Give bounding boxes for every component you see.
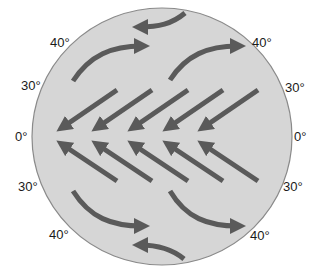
latitude-label-right-30-north: 30°	[285, 81, 305, 94]
global-wind-belts-diagram: 40° 30° 0° 30° 40° 40° 30° 0° 30° 40°	[0, 0, 317, 277]
latitude-label-right-30-south: 30°	[283, 180, 303, 193]
latitude-label-right-40-south: 40°	[250, 229, 270, 242]
latitude-label-right-equator: 0°	[294, 130, 306, 143]
latitude-label-right-40-north: 40°	[252, 36, 272, 49]
latitude-label-left-40-north: 40°	[50, 36, 70, 49]
latitude-label-left-40-south: 40°	[49, 228, 69, 241]
latitude-label-left-30-south: 30°	[18, 180, 38, 193]
latitude-label-left-equator: 0°	[15, 130, 27, 143]
latitude-label-left-30-north: 30°	[21, 79, 41, 92]
